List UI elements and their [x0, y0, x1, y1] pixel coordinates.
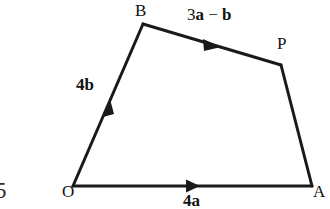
vector-label-4a: 4a: [183, 192, 200, 209]
vector-4a-coefficient: 4: [183, 191, 192, 209]
vector-4a-letter: a: [192, 191, 201, 209]
vector-4b-letter: b: [85, 75, 94, 94]
diagram-canvas: [0, 0, 330, 209]
page-number: 5: [0, 178, 7, 204]
vector-label-3a-minus-b: 3a − b: [187, 6, 232, 23]
vector-label-4b: 4b: [76, 76, 94, 93]
vector-minus-operator: −: [204, 5, 222, 24]
vertex-label-b: B: [135, 2, 146, 19]
vertex-label-p: P: [277, 35, 286, 52]
vertex-label-a: A: [313, 183, 325, 200]
vector-b-letter: b: [222, 5, 231, 24]
vector-4b-coefficient: 4: [76, 75, 85, 94]
vector-3a-coefficient: 3: [187, 5, 196, 24]
edge-p-to-a: [281, 65, 312, 186]
vertex-label-o: O: [62, 183, 74, 200]
vector-3a-letter: a: [196, 5, 205, 24]
vector-diagram-figure: B P A O 4b 3a − b 4a 5: [0, 0, 330, 209]
